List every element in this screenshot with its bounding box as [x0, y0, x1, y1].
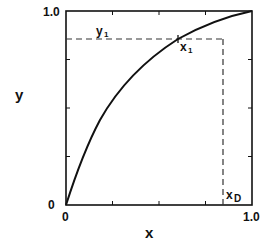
- x1-annotation: x 1: [180, 40, 193, 55]
- equilibrium-curve: [66, 11, 252, 205]
- x-min-label: 0: [62, 210, 69, 224]
- chart-figure: y x 1.0 0 0 1.0 y 1 x 1 x D: [0, 0, 272, 246]
- svg-text:1: 1: [188, 46, 193, 55]
- plot-frame: [66, 11, 252, 205]
- svg-text:D: D: [234, 193, 241, 204]
- svg-text:x: x: [226, 188, 233, 202]
- y1-annotation: y 1: [96, 24, 109, 39]
- x-axis-title: x: [145, 224, 154, 241]
- y-max-label: 1.0: [43, 5, 60, 19]
- svg-text:1: 1: [104, 30, 109, 39]
- xd-annotation: x D: [226, 188, 241, 204]
- svg-text:x: x: [180, 40, 187, 54]
- y-axis-title: y: [15, 86, 24, 103]
- y-min-label: 0: [48, 198, 55, 212]
- svg-text:y: y: [96, 24, 103, 38]
- x-max-label: 1.0: [243, 210, 260, 224]
